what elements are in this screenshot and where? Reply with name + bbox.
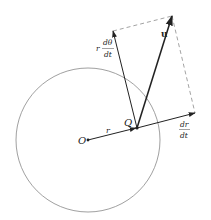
label-transverse-denominator: dt [104, 50, 113, 59]
origin-point [87, 139, 90, 142]
polar-velocity-diagram: O Q r u dr dt r dθ dt [0, 0, 211, 220]
label-velocity-u: u [161, 29, 168, 39]
label-point-q: Q [124, 117, 132, 128]
label-transverse-prefix: r [96, 44, 100, 53]
transverse-velocity-vector [113, 31, 137, 128]
radius-vector [88, 128, 136, 140]
label-transverse-numerator: dθ [103, 38, 113, 47]
label-radial-numerator: dr [180, 120, 189, 129]
label-radial-denominator: dt [180, 131, 189, 140]
dashed-edge-right [172, 16, 195, 113]
label-origin: O [78, 135, 86, 146]
label-radius: r [106, 126, 111, 135]
